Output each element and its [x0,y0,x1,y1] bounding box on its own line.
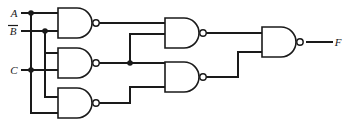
logic-circuit-diagram: A B C F [0,0,349,130]
junction-dot-b-bar [42,28,48,34]
gate-2-body [58,48,92,78]
nand-gate-5 [165,62,206,92]
input-wires [22,13,58,113]
circuit-canvas: A B C F [0,0,349,130]
gate-3-bubble [93,100,99,106]
nand-gate-2 [58,48,99,78]
input-label-c: C [10,64,18,76]
output-label-f: F [334,36,342,48]
gate-4-bubble [200,30,206,36]
input-labels: A B C [8,7,18,76]
gate-4-body [165,18,199,48]
gate-6-bubble [297,39,303,45]
junction-dot-c [28,67,34,73]
gate-2-bubble [93,60,99,66]
nand-gate-6 [262,27,303,57]
output-labels: F [334,36,342,48]
junction-dot-gate2out [127,60,133,66]
input-label-a: A [10,7,18,19]
gate-6-body [262,27,296,57]
gate-5-bubble [200,74,206,80]
input-label-b-bar: B [10,25,17,37]
gate-5-body [165,62,199,92]
interconnect-wires [100,23,332,103]
nand-gate-1 [58,8,99,38]
gate-1-bubble [93,20,99,26]
nand-gate-4 [165,18,206,48]
junction-dot-a [28,10,34,16]
gate-1-body [58,8,92,38]
gate-3-body [58,88,92,118]
nand-gate-3 [58,88,99,118]
